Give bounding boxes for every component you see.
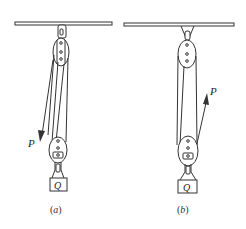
force-label-a: P bbox=[27, 137, 35, 149]
figure-b bbox=[124, 23, 234, 193]
rope-a-3 bbox=[66, 58, 68, 142]
upper-pulley-b bbox=[178, 40, 196, 68]
rope-b-2 bbox=[180, 66, 184, 145]
pull-rope-a bbox=[42, 60, 53, 135]
force-arrow-b bbox=[203, 93, 209, 105]
rope-b-1 bbox=[177, 56, 178, 145]
pull-rope-b bbox=[196, 103, 206, 148]
pulley-diagram: P Q (a) P Q (b) bbox=[0, 0, 246, 229]
rope-b-3 bbox=[196, 56, 197, 145]
load-label-b: Q bbox=[183, 182, 191, 193]
figure-a bbox=[15, 22, 112, 191]
lower-pulley-a bbox=[49, 137, 67, 163]
ceiling-beam-b bbox=[124, 23, 234, 26]
force-label-b: P bbox=[209, 85, 217, 97]
top-link-a bbox=[58, 25, 66, 38]
caption-b: (b) bbox=[177, 204, 189, 216]
lower-pulley-b bbox=[178, 136, 198, 166]
load-label-a: Q bbox=[54, 180, 62, 191]
force-arrow-a bbox=[38, 130, 45, 142]
upper-pulley-a bbox=[53, 38, 69, 66]
caption-a: (a) bbox=[50, 204, 62, 216]
